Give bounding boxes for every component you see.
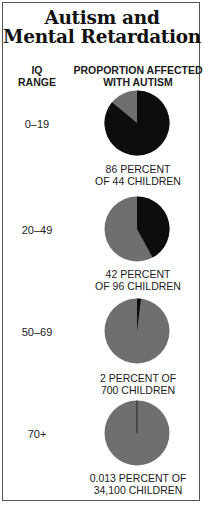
chart-title-line1: Autism and — [0, 8, 204, 28]
proportion-header-line2: WITH AUTISM — [72, 76, 204, 88]
iq-range-label: 0–19 — [12, 118, 62, 130]
pie-caption-line2: OF 96 CHILDREN — [87, 280, 189, 292]
iq-header-line1: IQ — [12, 64, 62, 76]
proportion-header-line1: PROPORTION AFFECTED — [72, 64, 204, 76]
pie-chart-row-3 — [104, 298, 170, 364]
iq-range-label: 70+ — [12, 428, 62, 440]
pie-caption-line2: 700 CHILDREN — [87, 384, 189, 396]
pie-chart-row-2 — [104, 196, 170, 262]
pie-caption-line1: 0.013 PERCENT OF — [87, 472, 189, 484]
chart-title-line2: Mental Retardation — [0, 27, 204, 47]
iq-range-label: 20–49 — [12, 224, 62, 236]
pie-chart-row-4 — [104, 400, 170, 466]
pie-caption-line1: 42 PERCENT — [87, 268, 189, 280]
pie-chart-row-1 — [104, 90, 170, 156]
pie-caption-line1: 86 PERCENT — [87, 163, 189, 175]
iq-range-label: 50–69 — [12, 326, 62, 338]
pie-caption-line2: 34,100 CHILDREN — [87, 484, 189, 496]
pie-caption-line2: OF 44 CHILDREN — [87, 175, 189, 187]
pie-caption-line1: 2 PERCENT OF — [87, 372, 189, 384]
iq-header-line2: RANGE — [12, 76, 62, 88]
